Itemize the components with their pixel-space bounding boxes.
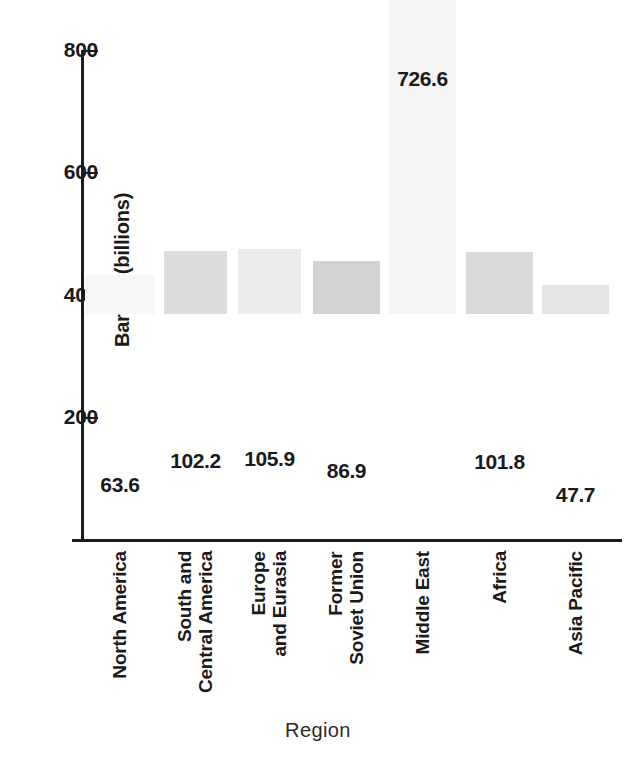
bar-value-label-6: 101.8 [452, 451, 547, 472]
category-label-line: Middle East [412, 551, 433, 654]
bar-2 [164, 251, 227, 314]
category-label-line: Asia Pacific [565, 551, 586, 655]
bar-value-label-1: 63.6 [71, 474, 169, 495]
bar-value-label-4: 86.9 [299, 460, 394, 481]
category-label-line: Former [325, 551, 346, 665]
category-label-line: Central America [195, 551, 216, 693]
category-label-line: Europe [248, 551, 269, 657]
category-label-7: Asia Pacific [565, 551, 587, 655]
category-label-line: Africa [489, 551, 510, 604]
category-label-5: Middle East [412, 551, 434, 654]
bar-5 [389, 0, 456, 314]
bar-6 [466, 252, 533, 314]
category-label-4: FormerSoviet Union [325, 551, 369, 665]
category-label-1: North America [109, 551, 131, 679]
bar-chart: 800 600 400 200 Barrels (billions) 63.61… [0, 0, 636, 766]
category-label-line: North America [109, 551, 130, 679]
bar-value-label-7: 47.7 [528, 484, 623, 505]
bar-3 [238, 249, 301, 314]
x-axis-title: Region [0, 719, 636, 742]
category-label-line: and Eurasia [269, 551, 290, 657]
bar-4 [313, 261, 380, 314]
bar-7 [542, 285, 609, 314]
category-label-line: Soviet Union [346, 551, 367, 665]
category-label-6: Africa [489, 551, 511, 604]
category-label-3: Europeand Eurasia [248, 551, 292, 657]
bar-1 [85, 275, 155, 314]
bar-value-label-5: 726.6 [375, 68, 470, 89]
category-label-2: South andCentral America [174, 551, 218, 693]
category-label-line: South and [174, 551, 195, 693]
